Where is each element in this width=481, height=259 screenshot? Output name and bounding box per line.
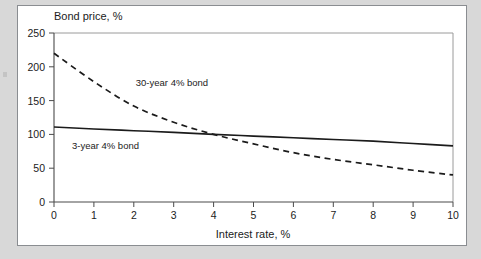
y-tick-label: 250 xyxy=(27,27,45,39)
x-tick-label: 5 xyxy=(251,209,257,221)
plot-frame xyxy=(54,33,453,202)
y-tick-labels: 250 200 150 100 50 0 xyxy=(27,27,45,208)
x-tick-label: 6 xyxy=(290,209,296,221)
scan-speck xyxy=(3,72,7,77)
x-axis-title: Interest rate, % xyxy=(216,228,291,240)
y-tick-marks xyxy=(49,33,54,202)
y-tick-label: 150 xyxy=(27,95,45,107)
x-tick-marks xyxy=(54,202,453,207)
x-tick-label: 7 xyxy=(330,209,336,221)
series-annotation-30-year: 30-year 4% bond xyxy=(136,77,208,88)
axes xyxy=(54,33,453,202)
x-tick-label: 9 xyxy=(410,209,416,221)
y-tick-label: 100 xyxy=(27,128,45,140)
x-tick-label: 3 xyxy=(171,209,177,221)
figure-panel: Bond price, % 250 200 150 100 50 0 0 1 2… xyxy=(17,5,467,246)
x-tick-label: 1 xyxy=(91,209,97,221)
x-tick-label: 4 xyxy=(211,209,217,221)
y-tick-label: 0 xyxy=(39,196,45,208)
x-tick-label: 0 xyxy=(51,209,57,221)
x-tick-label: 8 xyxy=(370,209,376,221)
x-tick-label: 10 xyxy=(447,209,459,221)
x-tick-labels: 0 1 2 3 4 5 6 7 8 9 10 xyxy=(51,209,459,221)
y-tick-label: 50 xyxy=(33,162,45,174)
series-line-30-year xyxy=(54,53,453,175)
bond-price-chart: Bond price, % 250 200 150 100 50 0 0 1 2… xyxy=(18,6,465,244)
y-tick-label: 200 xyxy=(27,61,45,73)
series-annotation-3-year: 3-year 4% bond xyxy=(72,140,139,151)
y-axis-title: Bond price, % xyxy=(54,10,123,22)
x-tick-label: 2 xyxy=(131,209,137,221)
